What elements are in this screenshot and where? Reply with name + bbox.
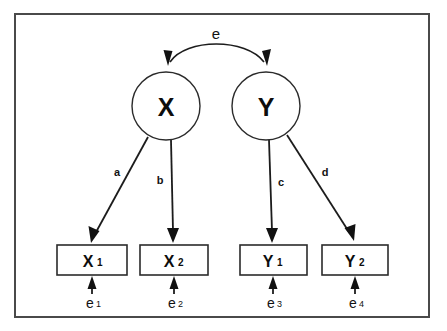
path-diagram-root: e a b c d X bbox=[0, 0, 447, 331]
indicator-sub-x1: 1 bbox=[97, 257, 103, 268]
indicator-node-x1: X 1 bbox=[57, 245, 127, 275]
latent-label-y: Y bbox=[258, 93, 275, 121]
indicator-label-y2: Y bbox=[345, 253, 356, 270]
error-sub-e3: 3 bbox=[277, 299, 282, 309]
path-diagram-canvas: e a b c d X bbox=[0, 0, 447, 331]
loading-label-b: b bbox=[157, 174, 164, 186]
latent-node-x: X bbox=[132, 72, 200, 140]
latent-label-x: X bbox=[158, 93, 175, 121]
indicator-sub-y2: 2 bbox=[359, 257, 365, 268]
error-sub-e4: 4 bbox=[359, 299, 364, 309]
loading-label-c: c bbox=[278, 176, 284, 188]
indicator-node-x2: X 2 bbox=[140, 245, 208, 275]
loading-label-a: a bbox=[114, 166, 121, 178]
error-sub-e1: 1 bbox=[96, 299, 101, 309]
error-sub-e2: 2 bbox=[178, 299, 183, 309]
correlation-label-e: e bbox=[212, 25, 220, 42]
error-label-e4: e bbox=[349, 295, 357, 311]
indicator-box-y1 bbox=[240, 245, 307, 275]
indicator-node-y1: Y 1 bbox=[240, 245, 307, 275]
error-label-e3: e bbox=[267, 295, 275, 311]
indicator-label-x2: X bbox=[164, 253, 175, 270]
indicator-label-y1: Y bbox=[263, 253, 274, 270]
loading-label-d: d bbox=[322, 166, 329, 178]
indicator-sub-y1: 1 bbox=[277, 257, 283, 268]
indicator-label-x1: X bbox=[83, 253, 94, 270]
error-label-e1: e bbox=[86, 295, 94, 311]
latent-node-y: Y bbox=[232, 72, 300, 140]
indicator-node-y2: Y 2 bbox=[322, 245, 388, 275]
indicator-sub-x2: 2 bbox=[178, 257, 184, 268]
error-label-e2: e bbox=[168, 295, 176, 311]
